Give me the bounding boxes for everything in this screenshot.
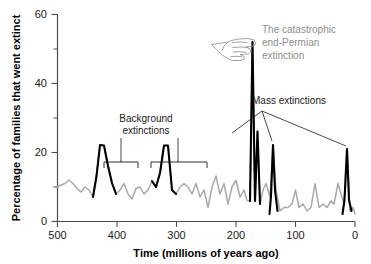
x-tick-label-300: 300 (167, 229, 185, 241)
x-tick-label-100: 100 (286, 229, 304, 241)
mass-leader-to-triassic (262, 111, 272, 141)
mass-extinction-segment-devonian (152, 146, 176, 195)
chart-canvas: 0 20 40 60 500 400 300 200 100 0 Time (m… (0, 0, 371, 264)
data-series-group (58, 42, 356, 214)
background-extinction-line (58, 42, 356, 214)
background-bracket-right (151, 160, 207, 168)
y-tick-label-0: 0 (41, 215, 47, 227)
pointing-hand-icon (212, 39, 256, 61)
y-tick-label-40: 40 (35, 77, 47, 89)
mass-extinction-segment-ordovician (93, 145, 116, 197)
y-axis-title: Percentage of families that went extinct (10, 14, 22, 221)
x-tick-label-500: 500 (48, 229, 66, 241)
annotation-mass-extinctions: Mass extinctions (232, 95, 346, 146)
background-extinctions-label-line2: extinctions (122, 125, 169, 136)
annotation-background-extinctions: Background extinctions (104, 113, 207, 168)
catastrophic-label-line3: extinction (262, 50, 304, 61)
extinction-rate-chart: 0 20 40 60 500 400 300 200 100 0 Time (m… (0, 0, 371, 264)
catastrophic-label-line2: end-Permian (262, 37, 319, 48)
y-tick-label-20: 20 (35, 146, 47, 158)
mass-extinction-segment-cretaceous (343, 149, 352, 214)
mass-extinctions-label: Mass extinctions (252, 95, 326, 106)
x-tick-label-0: 0 (352, 229, 358, 241)
x-tick-label-200: 200 (227, 229, 245, 241)
mass-leader-to-cretaceous (262, 111, 346, 146)
x-tick-label-400: 400 (108, 229, 126, 241)
mass-extinction-segment-triassic (270, 145, 278, 214)
catastrophic-label-line1: The catastrophic (262, 24, 336, 35)
x-axis-title: Time (millions of years ago) (133, 247, 279, 259)
annotation-catastrophic-end-permian: The catastrophic end-Permian extinction (212, 24, 336, 61)
background-extinctions-label-line1: Background (119, 113, 172, 124)
mass-leader-to-permian (232, 111, 262, 133)
mass-extinction-segment-permian (250, 42, 260, 204)
y-tick-label-60: 60 (35, 8, 47, 20)
